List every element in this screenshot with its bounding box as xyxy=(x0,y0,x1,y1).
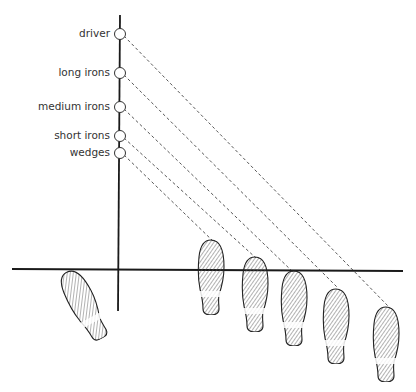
footprints xyxy=(55,240,399,382)
right-foot-1-footprint-icon xyxy=(198,240,224,315)
ball-marker-icon xyxy=(115,131,126,142)
right-foot-5-footprint-icon xyxy=(373,307,399,382)
club-label: driver xyxy=(0,27,110,39)
right-foot-4-footprint-icon xyxy=(323,289,349,364)
ball-marker-icon xyxy=(115,148,126,159)
left-foot-footprint-icon xyxy=(55,266,113,344)
ball-marker-icon xyxy=(115,29,126,40)
golf-stance-diagram xyxy=(0,0,416,392)
dashed-line-3 xyxy=(124,138,256,258)
ball-marker-icon xyxy=(115,68,126,79)
club-label: wedges xyxy=(0,146,110,158)
ball-marker-icon xyxy=(115,102,126,113)
club-label: short irons xyxy=(0,129,110,141)
club-label: medium irons xyxy=(0,100,110,112)
right-foot-3-footprint-icon xyxy=(281,271,307,346)
right-foot-2-footprint-icon xyxy=(242,257,268,332)
dashed-line-4 xyxy=(124,155,214,242)
ball-position-axis xyxy=(118,15,120,311)
club-label: long irons xyxy=(0,66,110,78)
dashed-line-1 xyxy=(124,75,338,288)
